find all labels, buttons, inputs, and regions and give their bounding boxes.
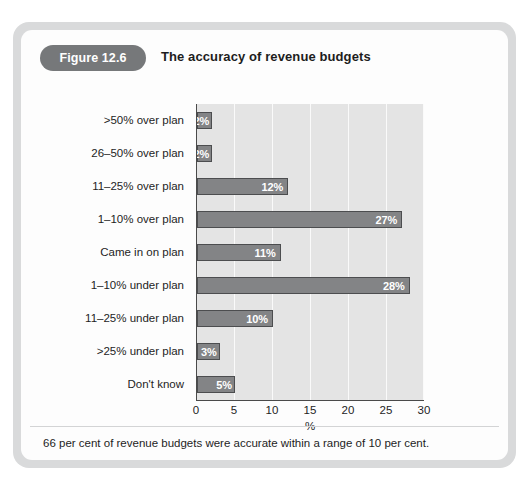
gridline — [310, 104, 311, 401]
bar[interactable]: 2% — [197, 112, 212, 129]
bar[interactable]: 11% — [197, 244, 281, 261]
figure-number-badge: Figure 12.6 — [40, 45, 146, 71]
category-label: 11–25% under plan — [21, 302, 196, 335]
category-label: >50% over plan — [21, 104, 196, 137]
bar-value-label: 28% — [383, 280, 409, 292]
figure-header: Figure 12.6 The accuracy of revenue budg… — [21, 45, 508, 71]
bar[interactable]: 10% — [197, 310, 273, 327]
figure-card: Figure 12.6 The accuracy of revenue budg… — [21, 30, 508, 460]
bar-value-label: 11% — [254, 247, 279, 259]
bar-value-label: 12% — [261, 181, 287, 193]
x-tick-label: 10 — [266, 404, 279, 416]
category-label: 1–10% under plan — [21, 269, 196, 302]
category-axis-labels: >50% over plan 26–50% over plan 11–25% o… — [21, 104, 196, 401]
category-label: 1–10% over plan — [21, 203, 196, 236]
figure-title: The accuracy of revenue budgets — [161, 49, 371, 64]
gridline — [386, 104, 387, 401]
bar[interactable]: 28% — [197, 277, 410, 294]
bar-value-label: 27% — [375, 214, 401, 226]
category-label: >25% under plan — [21, 335, 196, 368]
figure-caption: 66 per cent of revenue budgets were accu… — [43, 436, 490, 451]
x-axis-tick-labels: 0 5 10 15 20 25 30 — [196, 404, 424, 420]
category-label: Don't know — [21, 368, 196, 401]
x-axis-line — [196, 400, 424, 401]
y-axis-line — [196, 104, 197, 401]
running-header — [300, 1, 520, 10]
x-tick-label: 25 — [380, 404, 393, 416]
bar[interactable]: 3% — [197, 343, 220, 360]
x-tick-label: 30 — [418, 404, 431, 416]
bar[interactable]: 5% — [197, 376, 235, 393]
x-tick-label: 0 — [193, 404, 199, 416]
bar[interactable]: 2% — [197, 145, 212, 162]
gridline — [423, 104, 424, 401]
category-label: 26–50% over plan — [21, 137, 196, 170]
bar[interactable]: 12% — [197, 178, 288, 195]
x-tick-label: 15 — [304, 404, 317, 416]
category-label: 11–25% over plan — [21, 170, 196, 203]
bar[interactable]: 27% — [197, 211, 402, 228]
figure-panel: Figure 12.6 The accuracy of revenue budg… — [13, 22, 516, 468]
x-tick-label: 20 — [342, 404, 355, 416]
category-label: Came in on plan — [21, 236, 196, 269]
x-tick-label: 5 — [231, 404, 237, 416]
gridline — [348, 104, 349, 401]
bar-value-label: 5% — [216, 379, 234, 391]
bar-value-label: 10% — [246, 313, 272, 325]
bar-chart: >50% over plan 26–50% over plan 11–25% o… — [21, 82, 508, 422]
caption-divider — [30, 426, 499, 427]
bar-value-label: 3% — [201, 346, 219, 358]
plot-area: 2% 2% 12% 27% — [196, 104, 424, 401]
